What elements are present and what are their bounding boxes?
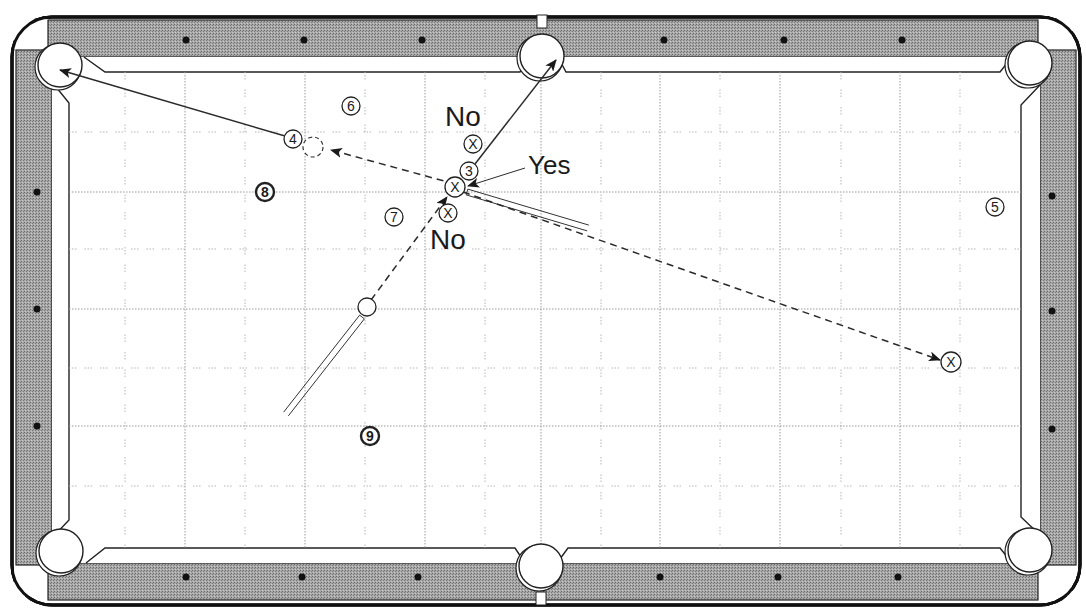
diamond-marker — [415, 574, 422, 581]
pocket-bottom-middle — [516, 544, 563, 591]
diamond-marker — [34, 423, 41, 430]
diamond-marker — [775, 574, 782, 581]
ball-8: 8 — [256, 183, 274, 201]
x-contact: X — [445, 177, 465, 197]
ball-number: 3 — [465, 163, 473, 179]
diamond-marker — [183, 574, 190, 581]
pool-diagram: 3456789XXXX No Yes No — [0, 0, 1086, 612]
diamond-marker — [34, 306, 41, 313]
label-yes: Yes — [528, 152, 570, 178]
x-target-right: X — [941, 352, 961, 372]
pocket-bottom-left — [36, 529, 83, 576]
x-mark-letter: X — [450, 179, 460, 195]
ball-number: 8 — [261, 184, 269, 200]
ghost-ball — [303, 137, 323, 157]
diamond-marker — [1049, 308, 1056, 315]
diamond-marker — [1049, 426, 1056, 433]
ball-7: 7 — [385, 208, 403, 226]
x-mark-letter: X — [443, 205, 453, 221]
cue-ball — [358, 298, 376, 316]
ball-6: 6 — [342, 97, 360, 115]
diamond-marker — [301, 37, 308, 44]
cue-ball — [358, 298, 376, 316]
diamond-marker — [899, 37, 906, 44]
diamond-marker — [34, 189, 41, 196]
x-no-lower: X — [439, 204, 457, 222]
diamond-marker — [299, 574, 306, 581]
ball-number: 9 — [366, 428, 374, 444]
diamond-marker — [1049, 193, 1056, 200]
x-mark-letter: X — [946, 354, 956, 370]
label-no-bottom: No — [430, 226, 466, 254]
ball-number: 7 — [390, 209, 398, 225]
diamond-marker — [781, 37, 788, 44]
ball-9: 9 — [361, 427, 379, 445]
diamond-marker — [183, 37, 190, 44]
ball-3: 3 — [460, 162, 478, 180]
x-mark-letter: X — [468, 136, 478, 152]
ball-number: 4 — [289, 131, 297, 147]
diamond-marker — [419, 37, 426, 44]
diamond-marker — [657, 574, 664, 581]
label-no-top: No — [445, 103, 481, 131]
right-rail — [1040, 50, 1076, 565]
pocket-bottom-right — [1005, 528, 1052, 575]
diamond-marker — [661, 37, 668, 44]
ball-number: 6 — [347, 98, 355, 114]
pool-table: 3456789XXXX — [0, 0, 1086, 612]
ball-4: 4 — [284, 130, 302, 148]
pocket-top-middle — [517, 34, 564, 81]
ball-5: 5 — [986, 198, 1004, 216]
ball-number: 5 — [991, 199, 999, 215]
diamond-marker — [895, 574, 902, 581]
x-no-upper: X — [464, 135, 482, 153]
pocket-top-right — [1005, 41, 1052, 88]
pocket-top-left — [35, 43, 82, 90]
cushions — [52, 57, 1040, 563]
